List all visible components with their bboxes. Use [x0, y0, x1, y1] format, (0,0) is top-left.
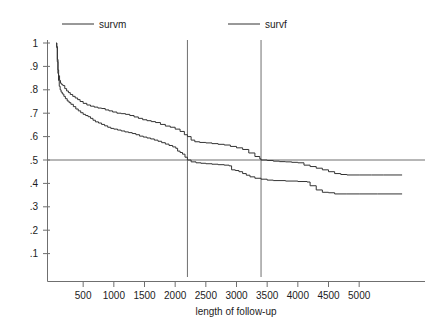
survival-chart: survm survf .1.2.3.4.5.6.7.8.91 50010001…: [0, 0, 439, 327]
y-tick-label: .9: [30, 61, 39, 72]
series-group: [56, 43, 402, 194]
x-tick-label: 4500: [317, 290, 340, 301]
y-tick-label: .1: [30, 248, 39, 259]
chart-canvas: survm survf .1.2.3.4.5.6.7.8.91 50010001…: [0, 0, 439, 327]
y-tick-label: .5: [30, 155, 39, 166]
y-tick-label: .7: [30, 108, 39, 119]
x-tick-label: 3000: [225, 290, 248, 301]
x-tick-label: 2000: [164, 290, 187, 301]
y-tick-label: .6: [30, 131, 39, 142]
legend: survm survf: [62, 19, 287, 30]
x-tick-label: 1500: [133, 290, 156, 301]
x-tick-label: 5000: [348, 290, 371, 301]
legend-label-survf: survf: [265, 19, 287, 30]
legend-label-survm: survm: [99, 19, 126, 30]
x-tick-label: 3500: [256, 290, 279, 301]
x-tick-group: 500100015002000250030003500400045005000: [75, 282, 371, 302]
y-tick-label: .2: [30, 225, 39, 236]
y-tick-group: .1.2.3.4.5.6.7.8.91: [30, 38, 50, 260]
reference-line-group: [48, 40, 426, 277]
y-tick-label: .4: [30, 178, 39, 189]
x-tick-label: 500: [75, 290, 92, 301]
x-tick-label: 4000: [287, 290, 310, 301]
y-tick-label: 1: [32, 38, 38, 49]
series-line-survm: [56, 43, 402, 175]
series-line-survf: [56, 43, 402, 194]
x-tick-label: 1000: [103, 290, 126, 301]
y-tick-label: .8: [30, 84, 39, 95]
y-tick-label: .3: [30, 201, 39, 212]
x-axis-title: length of follow-up: [195, 306, 277, 317]
x-tick-label: 2500: [195, 290, 218, 301]
